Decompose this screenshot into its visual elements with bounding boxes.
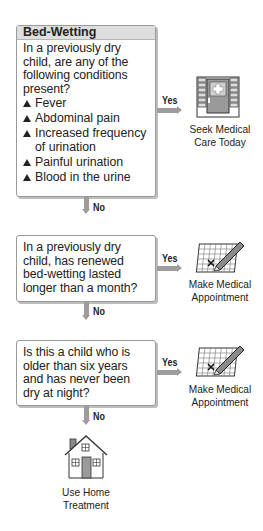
question-2-text: In a previously dry child, has renewed b… <box>17 236 155 295</box>
condition-item: Painful urination <box>23 156 149 170</box>
question-1-text: In a previously dry child, are any of th… <box>17 40 155 96</box>
flowchart-title: Bed-Wetting <box>17 26 155 40</box>
no-arrow-1 <box>84 197 89 210</box>
condition-item: Fever <box>23 97 149 111</box>
no-arrow-3 <box>84 406 89 421</box>
outcome-seek-medical-care: Seek Medical Care Today <box>185 123 255 148</box>
no-arrow-2 <box>84 302 89 316</box>
calendar-pencil-icon <box>194 342 246 380</box>
house-icon <box>63 435 109 481</box>
outcome-make-appointment-2: Make Medical Appointment <box>185 383 255 408</box>
no-label-2: No <box>93 305 105 317</box>
triangle-bullet-icon <box>23 100 31 107</box>
triangle-bullet-icon <box>23 115 31 122</box>
no-label-3: No <box>93 410 105 422</box>
condition-list: Fever Abdominal pain Increased frequency… <box>17 97 155 184</box>
triangle-bullet-icon <box>23 174 31 181</box>
no-label-1: No <box>93 201 105 213</box>
calendar-pencil-icon <box>194 238 246 276</box>
triangle-bullet-icon <box>23 130 31 137</box>
hospital-door-icon <box>196 76 240 118</box>
yes-label-2: Yes <box>162 252 177 264</box>
outcome-make-appointment-1: Make Medical Appointment <box>185 278 255 303</box>
triangle-bullet-icon <box>23 159 31 166</box>
condition-item: Increased frequency of urination <box>23 127 149 154</box>
question-3-text: Is this a child who is older than six ye… <box>17 341 155 400</box>
condition-item: Blood in the urine <box>23 171 149 185</box>
question-box-2: In a previously dry child, has renewed b… <box>16 235 156 302</box>
yes-arrow-1 <box>157 108 178 113</box>
yes-arrow-2 <box>157 266 178 271</box>
question-box-3: Is this a child who is older than six ye… <box>16 340 156 406</box>
yes-label-3: Yes <box>162 356 177 368</box>
question-box-1: Bed-Wetting In a previously dry child, a… <box>16 25 156 197</box>
condition-item: Abdominal pain <box>23 112 149 126</box>
yes-arrow-3 <box>157 370 178 375</box>
yes-label-1: Yes <box>162 94 177 106</box>
outcome-use-home-treatment: Use Home Treatment <box>51 486 121 511</box>
